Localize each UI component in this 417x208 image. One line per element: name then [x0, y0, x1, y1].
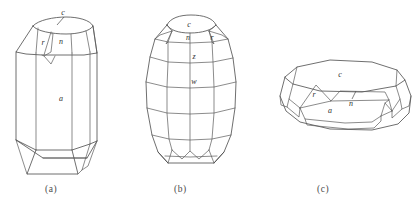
crystal-b-vert-edge-left — [167, 31, 172, 150]
crystal-b-bottom-line — [165, 156, 217, 157]
crystal-b-label-r: r — [210, 33, 214, 42]
caption-b: (b) — [174, 184, 187, 194]
crystal-a-bottom-outline — [27, 150, 78, 174]
crystal-a-prism-body — [16, 52, 97, 158]
crystal-figure: c r n a — [0, 0, 417, 208]
crystal-c-label-c: c — [338, 70, 342, 79]
crystal-c-label-n: n — [349, 99, 353, 108]
crystal-c-front-lower-edge — [300, 108, 392, 123]
crystal-b-bottom-notch — [172, 150, 209, 159]
crystal-c-band-line — [289, 84, 300, 108]
crystal-a-bottom-right-edge — [78, 144, 90, 174]
caption-a: (a) — [45, 184, 57, 194]
crystal-a-label-n: n — [59, 37, 63, 46]
crystal-c-group: c r n a — [280, 60, 411, 130]
crystal-b-upper-zone — [146, 25, 168, 163]
crystal-a-label-a: a — [59, 94, 63, 103]
crystal-b-label-n: n — [186, 33, 190, 42]
crystal-a-leader-c — [57, 17, 64, 25]
crystal-a-upper-bevel — [16, 26, 97, 55]
crystal-b-zone-line-5 — [152, 135, 231, 140]
crystal-a-face-divider-right — [86, 31, 90, 52]
crystal-a-notch — [44, 56, 55, 64]
crystal-b-bevel-left — [167, 25, 172, 31]
crystal-a-label-r: r — [41, 38, 45, 47]
crystal-b-top-face-c — [167, 15, 216, 33]
crystal-c-left-lower-facet — [287, 99, 300, 117]
crystal-b-bevel-right — [209, 25, 216, 31]
crystal-c-band-line-right — [392, 86, 400, 111]
crystal-b-label-w: w — [191, 77, 197, 86]
crystal-a-upper-right-edge — [93, 26, 97, 53]
crystal-c-back-right-edge — [396, 70, 397, 86]
crystal-c-right-corner-facet — [381, 100, 389, 116]
crystal-c-label-a: a — [328, 106, 332, 115]
crystal-b-zone-line-4 — [147, 108, 235, 114]
crystal-b-bottom-outline — [158, 152, 224, 163]
crystal-a-group: c r n a — [16, 8, 97, 174]
crystal-b-zone-line-1 — [155, 39, 228, 43]
crystal-b-upper-zone-right — [214, 25, 236, 163]
crystal-a-face-divider-r — [44, 32, 51, 55]
crystal-b-label-c: c — [187, 20, 191, 29]
crystal-c-face-n-top — [331, 91, 389, 101]
crystal-b-label-z: z — [191, 52, 196, 61]
crystal-c-label-r: r — [312, 90, 316, 99]
crystal-a-label-c: c — [61, 8, 65, 17]
crystal-a-face-divider-n2 — [71, 34, 72, 53]
caption-c: (c) — [317, 184, 329, 194]
crystal-a-top-face-c — [33, 17, 93, 34]
crystal-b-group: c n r z w — [146, 15, 236, 163]
crystal-drawings-svg: c r n a — [0, 0, 417, 208]
crystal-c-left-front-outline — [280, 77, 411, 130]
crystal-b-vert-edge-right — [209, 31, 214, 150]
crystal-c-top-face-c — [285, 60, 405, 92]
crystal-a-face-divider-left — [36, 28, 38, 53]
